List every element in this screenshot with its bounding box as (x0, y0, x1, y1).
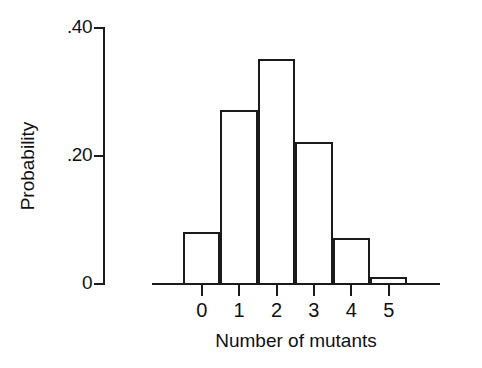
x-axis-line (152, 283, 440, 285)
x-tick-mark (388, 285, 390, 296)
x-tick-mark (313, 285, 315, 296)
x-tick-mark (201, 285, 203, 296)
x-tick-label: 1 (219, 299, 259, 322)
histogram-bar (220, 110, 257, 283)
x-axis-title: Number of mutants (152, 330, 440, 352)
histogram-bar (295, 142, 332, 283)
x-tick-label: 4 (331, 299, 371, 322)
x-tick-label: 0 (182, 299, 222, 322)
x-tick-label: 5 (369, 299, 409, 322)
histogram-bar (258, 59, 295, 283)
x-tick-mark (350, 285, 352, 296)
x-tick-mark (276, 285, 278, 296)
x-tick-mark (238, 285, 240, 296)
histogram-figure: .40 .20 0 Probability 012345 Number of m… (0, 0, 482, 368)
histogram-bar (333, 238, 370, 283)
histogram-bar (183, 232, 220, 283)
x-tick-label: 3 (294, 299, 334, 322)
x-tick-label: 2 (257, 299, 297, 322)
